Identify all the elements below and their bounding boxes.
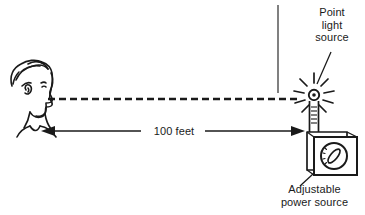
figure-container: Point light source Adjustable power sour… [0, 0, 365, 215]
adjustable-power-source-box [307, 132, 357, 175]
point-light-source [294, 73, 334, 138]
leader-line-point-light-source [317, 52, 331, 84]
bulb-filament-icon [312, 93, 316, 97]
label-point-light-source: Point light source [303, 6, 361, 44]
arrowhead-right [291, 126, 305, 136]
label-distance: 100 feet [143, 125, 205, 138]
label-adjustable-power-source: Adjustable power source [264, 183, 365, 208]
